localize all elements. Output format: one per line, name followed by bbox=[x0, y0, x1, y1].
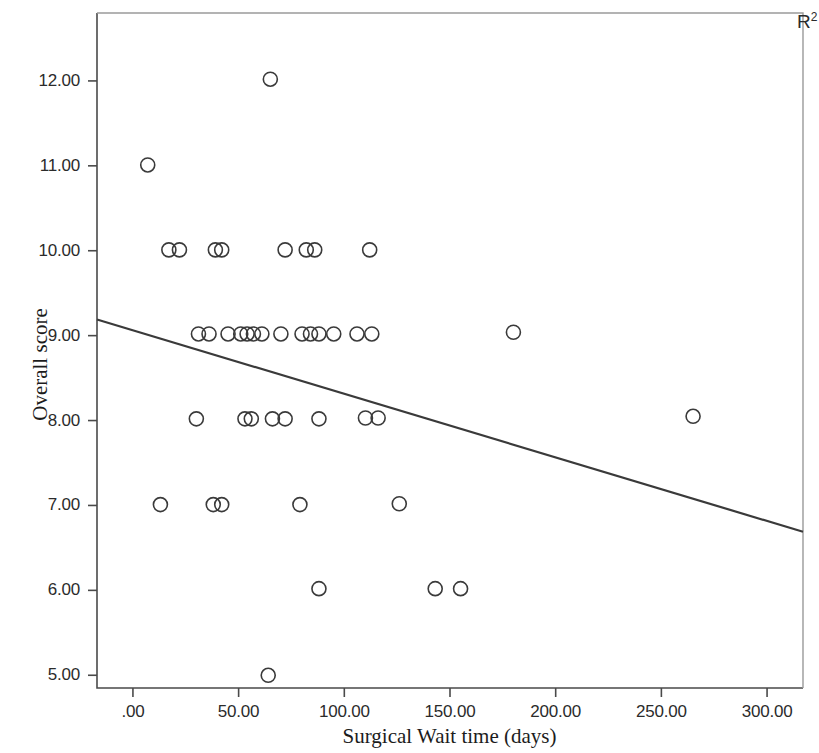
data-point bbox=[215, 498, 229, 512]
tick-marks bbox=[88, 81, 767, 697]
data-point bbox=[206, 498, 220, 512]
data-point bbox=[312, 412, 326, 426]
data-point bbox=[506, 325, 520, 339]
data-point bbox=[454, 582, 468, 596]
scatter-plot-figure: 5.006.007.008.009.0010.0011.0012.00 .005… bbox=[0, 0, 819, 753]
data-point bbox=[293, 498, 307, 512]
r-squared-annotation: R2 bbox=[797, 10, 817, 33]
x-tick-label: .00 bbox=[73, 702, 193, 722]
data-point bbox=[686, 409, 700, 423]
y-tick-label: 12.00 bbox=[2, 71, 80, 91]
x-tick-label: 150.00 bbox=[390, 702, 510, 722]
x-tick-label: 50.00 bbox=[179, 702, 299, 722]
data-point bbox=[327, 327, 341, 341]
data-point bbox=[261, 668, 275, 682]
y-axis-title: Overall score bbox=[28, 265, 53, 465]
y-tick-label: 10.00 bbox=[2, 241, 80, 261]
y-tick-label: 7.00 bbox=[2, 495, 80, 515]
y-tick-label: 6.00 bbox=[2, 580, 80, 600]
data-point bbox=[295, 327, 309, 341]
data-point bbox=[255, 327, 269, 341]
x-tick-label: 200.00 bbox=[496, 702, 616, 722]
data-point bbox=[365, 327, 379, 341]
data-point bbox=[274, 327, 288, 341]
plot-canvas bbox=[0, 0, 819, 753]
x-tick-label: 250.00 bbox=[601, 702, 721, 722]
data-point bbox=[153, 498, 167, 512]
linear-regression-line bbox=[97, 320, 803, 532]
data-point bbox=[363, 243, 377, 257]
data-point bbox=[202, 327, 216, 341]
data-point bbox=[278, 243, 292, 257]
data-point bbox=[308, 243, 322, 257]
r-squared-exponent: 2 bbox=[811, 10, 818, 24]
r-squared-letter: R bbox=[797, 11, 811, 32]
y-tick-label: 5.00 bbox=[2, 665, 80, 685]
x-tick-label: 100.00 bbox=[284, 702, 404, 722]
data-point bbox=[189, 412, 203, 426]
data-point bbox=[350, 327, 364, 341]
data-point bbox=[141, 158, 155, 172]
data-point bbox=[312, 582, 326, 596]
data-point bbox=[428, 582, 442, 596]
data-point-series bbox=[141, 72, 700, 682]
y-tick-label: 11.00 bbox=[2, 156, 80, 176]
x-axis-title: Surgical Wait time (days) bbox=[0, 724, 819, 749]
x-tick-label: 300.00 bbox=[707, 702, 819, 722]
data-point bbox=[312, 327, 326, 341]
data-point bbox=[172, 243, 186, 257]
data-point bbox=[303, 327, 317, 341]
data-point bbox=[263, 72, 277, 86]
data-point bbox=[299, 243, 313, 257]
data-point bbox=[392, 497, 406, 511]
